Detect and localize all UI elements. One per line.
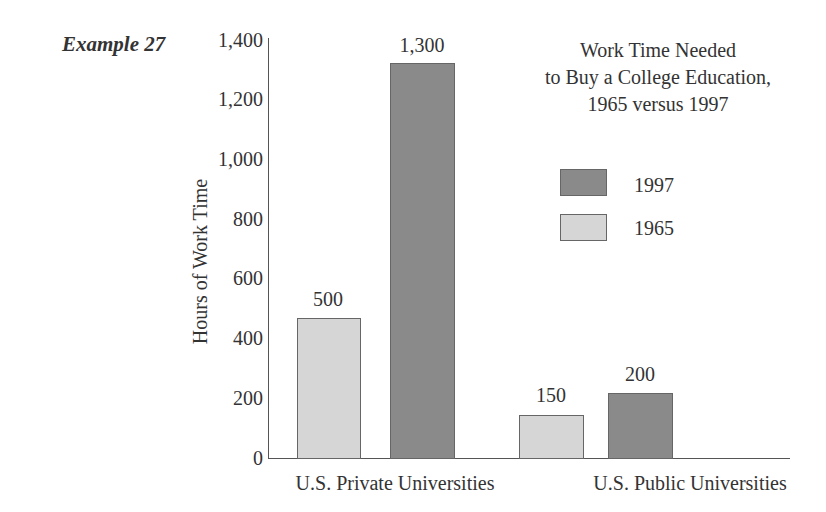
bar-value-label: 1,300 <box>382 34 462 57</box>
chart-title: Work Time Needed to Buy a College Educat… <box>510 37 806 118</box>
legend-swatch-1965 <box>560 214 607 241</box>
bar-1965-public <box>519 415 584 459</box>
y-tick-label: 1,200 <box>203 89 263 109</box>
y-tick-label: 0 <box>203 448 263 468</box>
bar-value-label: 500 <box>288 288 368 311</box>
y-axis-line <box>268 38 269 458</box>
bar-1997-private <box>390 63 455 459</box>
legend-swatch-1997 <box>560 169 607 196</box>
legend-label-1965: 1965 <box>634 217 674 240</box>
y-tick-label: 800 <box>203 209 263 229</box>
chart-title-line: Work Time Needed <box>510 37 806 64</box>
x-category-label: U.S. Private Universities <box>250 472 540 495</box>
example-label: Example 27 <box>62 32 165 57</box>
bar-value-label: 200 <box>600 363 680 386</box>
chart-title-line: to Buy a College Education, <box>510 64 806 91</box>
x-category-label: U.S. Public Universities <box>565 472 815 495</box>
bar-1997-public <box>608 393 673 459</box>
y-tick-label: 1,000 <box>203 149 263 169</box>
y-tick-label: 200 <box>203 388 263 408</box>
y-tick-label: 1,400 <box>203 30 263 50</box>
legend-label-1997: 1997 <box>634 174 674 197</box>
y-tick-label: 400 <box>203 328 263 348</box>
bar-value-label: 150 <box>511 384 591 407</box>
bar-1965-private <box>297 318 361 459</box>
chart-title-line: 1965 versus 1997 <box>510 91 806 118</box>
y-tick-label: 600 <box>203 268 263 288</box>
